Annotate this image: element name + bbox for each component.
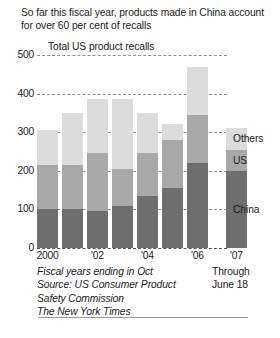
bar-2000 [37,130,58,248]
bar-2001 [62,113,83,248]
bar-group [37,55,227,248]
bar-segment-others-2002 [87,99,108,153]
bar-2003 [112,99,133,248]
footnote-line-3: Safety Commission [37,292,212,305]
footnote-line-2: Source: US Consumer Product [37,278,212,291]
x-tick-label-2006: '06 [186,250,210,262]
bar-segment-china-2005 [162,188,183,248]
x-axis-labels: 2000'02'04'06'07 [37,250,237,264]
bar-segment-us-2002 [87,153,108,211]
bar-segment-others-2004 [137,113,158,154]
bar-2005 [162,124,183,248]
bar-segment-china-2001 [62,209,83,248]
y-tick-label-300: 300 [17,127,34,137]
y-tick-label-400: 400 [17,89,34,99]
bar-segment-china-2002 [87,211,108,248]
chart-figure: So far this fiscal year, products made i… [0,0,280,338]
x-tick-label-2004: '04 [136,250,160,262]
plot-area [37,55,227,248]
bar-segment-us-2004 [137,153,158,195]
x-tick-label-2007: '07 [225,250,249,262]
bar-segment-china-2006 [187,163,208,248]
bar-segment-china-2004 [137,196,158,248]
gridline-0 [37,248,227,249]
legend-label-us: US [233,155,247,166]
bar-segment-us-2000 [37,165,58,209]
through-line-2: June 18 [212,278,278,291]
bar-segment-us-2006 [187,115,208,163]
bar-segment-china-2003 [112,206,133,248]
bar-2002 [87,99,108,248]
through-line-1: Through [212,265,278,278]
legend-label-china: China [233,204,259,215]
bar-segment-others-2003 [112,99,133,168]
y-axis-labels: 0100200300400500 [0,55,34,248]
bar-segment-others-2000 [37,130,58,165]
bar-2004 [137,113,158,248]
bar-segment-others-2001 [62,113,83,165]
x-tick-label-2000: 2000 [36,250,60,262]
headline: So far this fiscal year, products made i… [21,7,269,32]
legend-label-others: Others [233,133,263,144]
bar-segment-china-2000 [37,209,58,248]
bar-segment-us-2005 [162,140,183,188]
chart-title: Total US product recalls [48,41,154,53]
bar-segment-others-2005 [162,124,183,139]
footnote-line-1: Fiscal years ending in Oct [37,265,212,278]
bar-segment-others-2006 [187,67,208,115]
bottom-rule [38,317,248,318]
legend: OthersUSChina [233,55,280,248]
y-tick-label-100: 100 [17,204,34,214]
through-note: Through June 18 [212,265,278,292]
y-tick-label-500: 500 [17,50,34,60]
y-tick-label-0: 0 [28,243,34,253]
y-tick-label-200: 200 [17,166,34,176]
footnote-block: Fiscal years ending in Oct Source: US Co… [37,265,212,319]
bar-segment-us-2001 [62,165,83,209]
x-tick-label-2002: '02 [86,250,110,262]
bar-2006 [187,67,208,248]
bar-segment-us-2003 [112,169,133,206]
